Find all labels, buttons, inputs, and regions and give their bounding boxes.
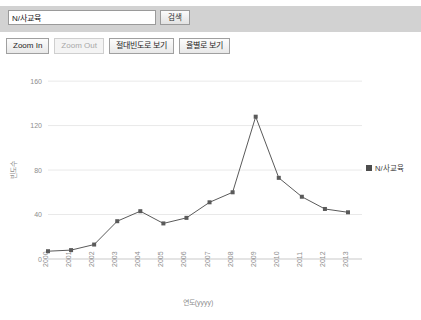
data-point-marker[interactable] (161, 221, 165, 225)
search-input[interactable] (8, 10, 156, 25)
search-bar: 검색 (0, 6, 421, 32)
zoom-out-button[interactable]: Zoom Out (54, 38, 104, 54)
x-tick-label: 2002 (88, 251, 95, 267)
x-tick-label: 2001 (65, 251, 72, 267)
data-point-marker[interactable] (254, 115, 258, 119)
x-tick-label: 2005 (157, 251, 164, 267)
y-tick-label: 160 (30, 78, 42, 85)
data-point-marker[interactable] (115, 219, 119, 223)
y-tick-label: 80 (34, 167, 42, 174)
x-tick-label: 2010 (273, 251, 280, 267)
x-tick-label: 2008 (227, 251, 234, 267)
x-tick-label: 2003 (111, 251, 118, 267)
x-tick-label: 2006 (180, 251, 187, 267)
absolute-frequency-button[interactable]: 절대빈도로 보기 (109, 38, 174, 54)
grid-lines (48, 81, 362, 259)
data-point-marker[interactable] (46, 249, 50, 253)
data-point-marker[interactable] (231, 190, 235, 194)
y-axis-title: 빈도수 (9, 160, 18, 179)
data-point-marker[interactable] (323, 207, 327, 211)
data-point-marker[interactable] (184, 216, 188, 220)
data-point-marker[interactable] (69, 248, 73, 252)
data-point-marker[interactable] (138, 209, 142, 213)
x-tick-label: 2004 (134, 251, 141, 267)
x-tick-label: 2009 (250, 251, 257, 267)
data-point-marker[interactable] (300, 195, 304, 199)
legend-swatch-icon (366, 165, 372, 171)
x-tick-label: 2000 (42, 251, 49, 267)
chart-legend: N/사교육 (366, 162, 404, 173)
zoom-in-button[interactable]: Zoom In (6, 38, 49, 54)
x-tick-label: 2007 (204, 251, 211, 267)
data-series (46, 115, 350, 254)
line-chart: 04080120160 2000200120022003200420052006… (0, 58, 421, 320)
rate-view-button[interactable]: 율별로 보기 (179, 38, 230, 54)
data-point-marker[interactable] (346, 210, 350, 214)
toolbar: Zoom In Zoom Out 절대빈도로 보기 율별로 보기 (6, 38, 230, 54)
legend-label: N/사교육 (375, 162, 404, 173)
y-axis-ticks: 04080120160 (30, 78, 42, 263)
x-axis-title: 연도(yyyy) (183, 299, 214, 307)
y-tick-label: 120 (30, 122, 42, 129)
x-tick-label: 2012 (319, 251, 326, 267)
data-point-marker[interactable] (208, 200, 212, 204)
x-tick-label: 2013 (342, 251, 349, 267)
data-point-marker[interactable] (92, 243, 96, 247)
data-point-marker[interactable] (277, 176, 281, 180)
y-tick-label: 40 (34, 211, 42, 218)
search-button[interactable]: 검색 (160, 10, 190, 25)
chart-container: 04080120160 2000200120022003200420052006… (0, 58, 421, 320)
series-line (48, 117, 348, 252)
x-tick-label: 2011 (296, 252, 303, 267)
